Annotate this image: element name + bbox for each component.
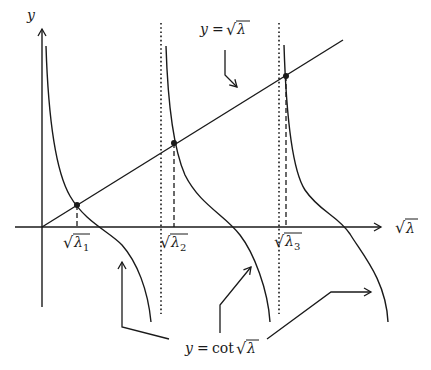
curve-label-pointer-arrow-1 (122, 262, 169, 339)
line-label-pointer-arrow (225, 50, 237, 87)
svg-text:√: √ (160, 233, 171, 252)
svg-text:√: √ (226, 20, 237, 39)
svg-text:cot: cot (212, 340, 234, 356)
line-label: y = √ λ (199, 20, 250, 39)
svg-text:=: = (212, 21, 224, 37)
svg-text:1: 1 (83, 242, 89, 253)
root-label-1: √ λ 1 (63, 233, 90, 253)
svg-text:λ: λ (246, 340, 256, 356)
root-label-2: √ λ 2 (160, 233, 188, 253)
curve-label-pointer-arrow-3 (267, 292, 371, 339)
svg-text:λ: λ (284, 233, 294, 249)
y-axis-label: y (26, 7, 36, 23)
x-axis-label: √ λ (395, 218, 418, 237)
svg-text:λ: λ (73, 234, 83, 250)
intersection-point-1 (74, 202, 80, 208)
svg-text:λ: λ (170, 234, 180, 250)
cot-branch-1 (46, 46, 151, 322)
svg-text:2: 2 (180, 242, 186, 253)
intersection-point-3 (283, 73, 289, 79)
cot-branch-3 (284, 45, 388, 322)
cot-branch-2 (166, 46, 270, 322)
svg-text:√: √ (236, 339, 247, 358)
intersection-point-2 (171, 140, 177, 146)
curve-label: y = cot √ λ (184, 339, 259, 358)
svg-text:λ: λ (405, 220, 415, 236)
svg-text:√: √ (63, 233, 74, 252)
svg-text:λ: λ (236, 21, 246, 37)
line-y-sqrt-lambda (42, 40, 343, 227)
svg-text:y: y (184, 340, 194, 356)
svg-text:3: 3 (294, 241, 300, 252)
curve-label-pointer-arrow-2 (220, 267, 251, 333)
eigenvalue-diagram: y √ λ y = √ λ √ λ 1 √ λ 2 √ λ 3 y = cot … (0, 0, 431, 370)
svg-text:√: √ (395, 218, 406, 237)
svg-text:=: = (197, 340, 209, 356)
root-label-3: √ λ 3 (274, 232, 302, 252)
svg-text:√: √ (274, 232, 285, 251)
svg-text:y: y (199, 21, 209, 37)
